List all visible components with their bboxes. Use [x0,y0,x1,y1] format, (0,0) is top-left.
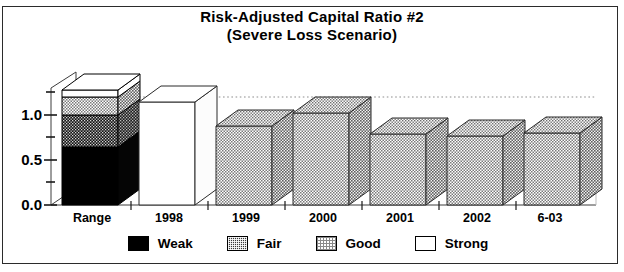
x-tick-label-2002: 2002 [440,211,514,225]
legend-item-weak[interactable]: Weak [128,236,227,251]
legend-swatch-weak-icon [128,236,149,251]
x-tick-label-2001: 2001 [363,211,437,225]
legend-swatch-fair-icon [227,236,248,251]
bar-range[interactable] [62,74,140,205]
bar-1999[interactable] [216,110,294,205]
bar-6-03[interactable] [524,117,602,205]
chart-legend: Weak Fair Good Strong [0,232,616,254]
legend-label-weak: Weak [158,236,193,251]
x-tick-label-2000: 2000 [286,211,360,225]
legend-swatch-good-icon [316,236,337,251]
x-tick-label-1998: 1998 [132,211,206,225]
bar-2001[interactable] [370,118,448,205]
legend-label-good: Good [346,236,381,251]
x-tick-label-6-03: 6-03 [513,211,587,225]
legend-label-strong: Strong [445,236,489,251]
x-tick-label-1999: 1999 [209,211,283,225]
bar-1998[interactable] [139,86,217,205]
bar-2002[interactable] [447,120,525,205]
legend-item-good[interactable]: Good [316,236,415,251]
legend-label-fair: Fair [257,236,282,251]
bar-2000[interactable] [293,97,371,205]
y-tick-label-1-0: 1.0 [0,106,42,123]
legend-swatch-strong-icon [415,236,436,251]
legend-item-fair[interactable]: Fair [227,236,316,251]
legend-item-strong[interactable]: Strong [415,236,489,251]
x-tick-label-range: Range [55,211,129,225]
y-tick-label-0-5: 0.5 [0,151,42,168]
y-tick-label-0-0: 0.0 [0,196,42,213]
